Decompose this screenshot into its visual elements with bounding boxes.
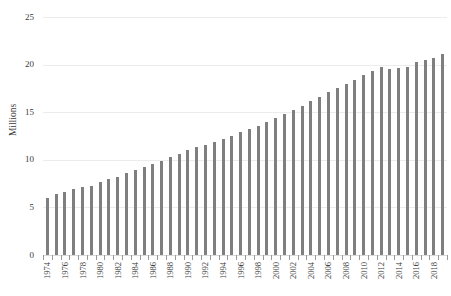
bar [353,80,356,255]
x-axis-tick [333,255,334,260]
x-axis-tick-label: 2018 [417,262,451,296]
bar [222,139,225,255]
bar [107,179,110,255]
x-axis-tick [289,255,290,260]
x-axis-tick [52,255,53,260]
bar [160,161,163,255]
bar [415,62,418,255]
x-axis-tick [342,255,343,260]
bar [55,194,58,255]
bar [388,69,391,255]
x-axis-tick [368,255,369,260]
bar [169,157,172,255]
bar [336,88,339,255]
x-axis-tick [359,255,360,260]
bar [90,186,93,255]
bar [345,84,348,255]
bar-chart: Millions 0510152025 19741976197819801982… [0,0,451,296]
x-axis-tick [69,255,70,260]
bar [186,150,189,255]
x-axis-tick [315,255,316,260]
x-axis-tick [412,255,413,260]
x-axis-tick [254,255,255,260]
bar [362,75,365,255]
bar [265,122,268,255]
x-axis-tick [271,255,272,260]
bar [195,147,198,255]
bar [116,177,119,255]
bar [125,173,128,255]
x-axis-ticks [43,255,447,261]
x-axis-tick [219,255,220,260]
bar [397,68,400,255]
bar [327,92,330,255]
bar [318,97,321,255]
bar [441,54,444,255]
x-axis-tick [236,255,237,260]
gridline [43,160,447,161]
y-axis-tick-label: 10 [25,155,34,164]
x-axis-tick [192,255,193,260]
bar [239,132,242,255]
x-axis-tick [350,255,351,260]
bar [371,71,374,255]
y-axis-tick-label: 5 [30,203,35,212]
x-axis-tick [175,255,176,260]
x-axis-tick [227,255,228,260]
x-axis-tick [306,255,307,260]
x-axis-tick [140,255,141,260]
bar [81,187,84,255]
bar [274,118,277,255]
bar [406,67,409,255]
bar [309,101,312,255]
bar [134,170,137,255]
x-axis-tick [157,255,158,260]
bar [257,126,260,255]
x-axis-tick [298,255,299,260]
x-axis-tick-label-text: 2018 [429,262,439,279]
x-axis-tick [421,255,422,260]
x-axis-tick [61,255,62,260]
x-axis-tick [201,255,202,260]
bar [230,136,233,255]
gridline [43,65,447,66]
bar [143,167,146,255]
x-axis-tick [245,255,246,260]
y-axis-tick-label: 15 [25,108,34,117]
bar [151,164,154,255]
x-axis-tick [43,255,44,260]
x-axis-tick [447,255,448,260]
y-axis-tick-label: 0 [30,251,35,260]
x-axis-tick [263,255,264,260]
y-axis-tick-label: 20 [25,60,34,69]
x-axis-tick [122,255,123,260]
bar [46,198,49,255]
gridline [43,207,447,208]
bar [178,154,181,255]
bar [213,142,216,255]
x-axis-tick [184,255,185,260]
bar [63,192,66,255]
x-axis-tick [403,255,404,260]
x-axis-tick [131,255,132,260]
x-axis-tick [386,255,387,260]
x-axis-tick [87,255,88,260]
bar [248,129,251,255]
x-axis-tick [148,255,149,260]
bar [72,189,75,255]
bar [380,67,383,255]
y-axis-tick-label: 25 [25,13,34,22]
plot-area [43,17,447,255]
x-axis-tick [113,255,114,260]
x-axis-tick-labels: 1974197619781980198219841986198819901992… [43,262,447,296]
x-axis-tick [210,255,211,260]
x-axis-tick [166,255,167,260]
gridline [43,17,447,18]
x-axis-tick [324,255,325,260]
bar [99,182,102,255]
bar [292,110,295,255]
x-axis-tick [104,255,105,260]
x-axis-tick [438,255,439,260]
x-axis-tick [280,255,281,260]
x-axis-tick [377,255,378,260]
